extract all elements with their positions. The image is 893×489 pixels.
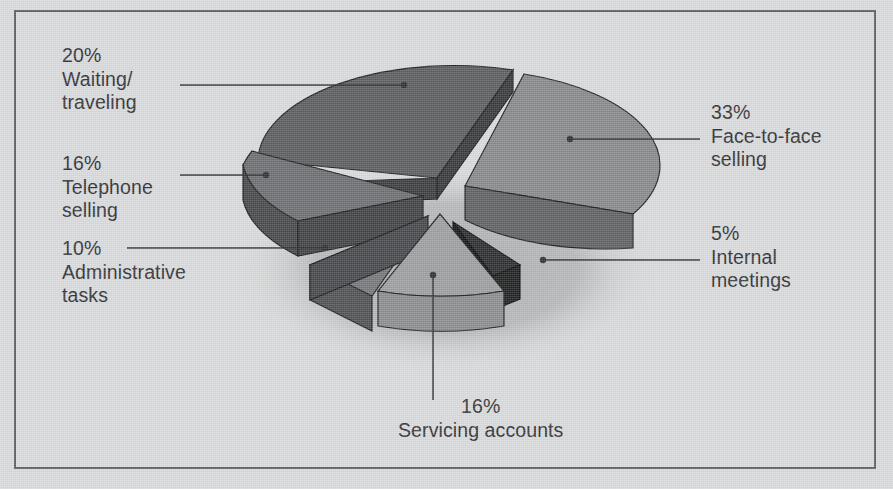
leader-dot-face-to-face-selling <box>567 136 573 142</box>
pie-slice-servicing-accounts-front <box>378 291 504 331</box>
leader-dot-administrative-tasks <box>322 245 328 251</box>
pie-slice-waiting-traveling-top <box>258 66 513 178</box>
pie-label-telephone-selling: 16% Telephone selling <box>62 152 153 223</box>
leader-dot-waiting-traveling <box>401 82 407 88</box>
pie-label-internal-meetings: 5% Internal meetings <box>711 222 791 293</box>
leader-dot-telephone-selling <box>263 172 269 178</box>
pie-label-waiting-traveling: 20% Waiting/ traveling <box>62 44 137 115</box>
leader-dot-servicing-accounts <box>430 272 436 278</box>
pie-label-administrative-tasks: 10% Administrative tasks <box>62 237 186 308</box>
chart-page: 20% Waiting/ traveling 16% Telephone sel… <box>0 0 893 489</box>
pie-label-servicing-accounts: 16% Servicing accounts <box>398 395 563 442</box>
leader-dot-internal-meetings <box>540 257 546 263</box>
pie-label-face-to-face-selling: 33% Face-to-face selling <box>711 101 822 172</box>
